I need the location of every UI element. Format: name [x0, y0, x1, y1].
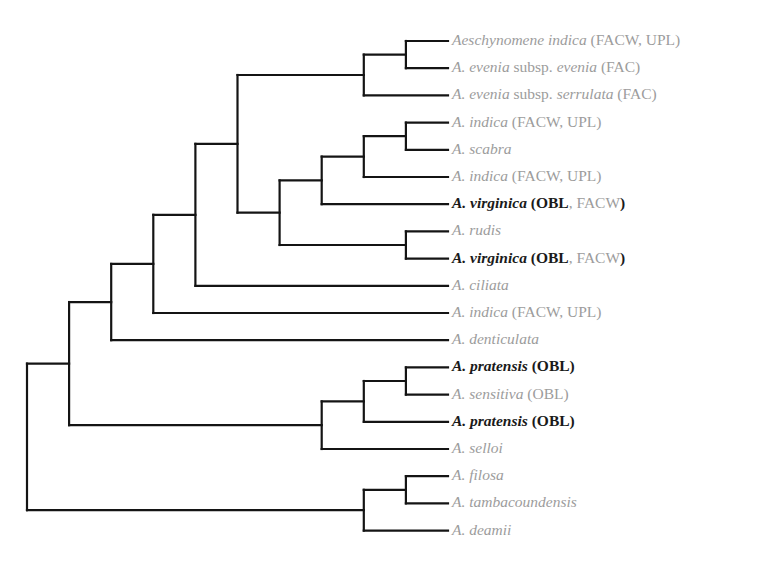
label-part: A. evenia — [452, 58, 510, 75]
leaf-label-l10: A. ciliata — [452, 276, 509, 294]
label-part: A. virginica — [452, 249, 527, 266]
label-part: OBL — [536, 249, 569, 266]
label-part: subsp. — [510, 58, 557, 75]
label-part: Aeschynomene indica — [452, 31, 587, 48]
label-part: OBL — [536, 194, 569, 211]
leaf-label-l19: A. deamii — [452, 521, 511, 539]
label-part: (FAC) — [597, 58, 640, 75]
label-part: A. virginica — [452, 194, 527, 211]
label-part: A. pratensis — [452, 412, 528, 429]
label-part: A. indica — [452, 113, 508, 130]
label-part: serrulata — [557, 85, 614, 102]
label-part: A. indica — [452, 167, 508, 184]
leaf-label-l5: A. scabra — [452, 140, 511, 158]
tree-branches — [0, 0, 774, 567]
leaf-label-l9: A. virginica (OBL, FACW) — [452, 249, 625, 267]
label-part: , FACW — [569, 194, 620, 211]
leaf-label-l8: A. rudis — [452, 221, 501, 239]
leaf-label-l16: A. selloi — [452, 439, 503, 457]
label-part: A. rudis — [452, 221, 501, 238]
leaf-label-l6: A. indica (FACW, UPL) — [452, 167, 601, 185]
label-part: ) — [620, 194, 625, 211]
leaf-label-l18: A. tambacoundensis — [452, 493, 577, 511]
label-part: ) — [620, 249, 625, 266]
label-part: subsp. — [510, 85, 557, 102]
leaf-label-l3: A. evenia subsp. serrulata (FAC) — [452, 85, 657, 103]
label-part: (FAC) — [613, 85, 656, 102]
label-part: evenia — [557, 58, 597, 75]
label-part: ( — [527, 194, 536, 211]
leaf-label-l7: A. virginica (OBL, FACW) — [452, 194, 625, 212]
leaf-label-l15: A. pratensis (OBL) — [452, 412, 575, 430]
label-part: (FACW, UPL) — [508, 167, 601, 184]
label-part: A. ciliata — [452, 276, 509, 293]
label-part: A. filosa — [452, 466, 504, 483]
leaf-label-l13: A. pratensis (OBL) — [452, 357, 575, 375]
leaf-label-l4: A. indica (FACW, UPL) — [452, 113, 601, 131]
label-part: A. scabra — [452, 140, 511, 157]
label-part: A. denticulata — [452, 330, 539, 347]
phylogenetic-tree-figure: Aeschynomene indica (FACW, UPL)A. evenia… — [0, 0, 774, 567]
leaf-label-l1: Aeschynomene indica (FACW, UPL) — [452, 31, 680, 49]
label-part: ( — [527, 249, 536, 266]
label-part: A. deamii — [452, 521, 511, 538]
label-part: A. selloi — [452, 439, 503, 456]
label-part: A. tambacoundensis — [452, 493, 577, 510]
label-part: A. sensitiva — [452, 385, 523, 402]
leaf-label-l17: A. filosa — [452, 466, 504, 484]
label-part: , FACW — [569, 249, 620, 266]
leaf-label-l11: A. indica (FACW, UPL) — [452, 303, 601, 321]
label-part: (OBL) — [528, 357, 575, 374]
label-part: (OBL) — [528, 412, 575, 429]
label-part: (FACW, UPL) — [508, 113, 601, 130]
leaf-label-l12: A. denticulata — [452, 330, 539, 348]
label-part: A. evenia — [452, 85, 510, 102]
label-part: (FACW, UPL) — [508, 303, 601, 320]
leaf-label-l14: A. sensitiva (OBL) — [452, 385, 569, 403]
label-part: A. indica — [452, 303, 508, 320]
label-part: A. pratensis — [452, 357, 528, 374]
label-part: (FACW, UPL) — [587, 31, 680, 48]
leaf-label-l2: A. evenia subsp. evenia (FAC) — [452, 58, 640, 76]
label-part: (OBL) — [523, 385, 568, 402]
